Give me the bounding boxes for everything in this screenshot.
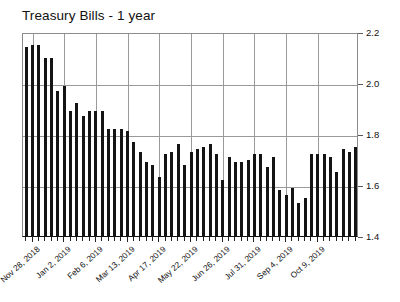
bar — [354, 147, 357, 236]
x-axis-tick-mark — [317, 237, 318, 242]
y-axis-tick-mark — [358, 186, 363, 187]
bar — [221, 180, 224, 236]
x-axis-tick-label: Mar 13, 2019 — [93, 244, 136, 284]
bar — [335, 172, 338, 236]
x-axis-tick-mark — [342, 237, 343, 241]
x-axis-tick-label: May 22, 2019 — [156, 244, 200, 285]
y-axis-tick-label: 1.8 — [366, 130, 379, 140]
bar — [183, 165, 186, 236]
bar — [342, 149, 345, 236]
x-axis-tick-label: Feb 6, 2019 — [65, 244, 105, 281]
x-axis-tick-mark — [228, 237, 229, 241]
x-axis-tick-label: Sep 4, 2019 — [255, 244, 295, 281]
x-axis-tick-mark — [323, 237, 324, 241]
bar — [145, 162, 148, 236]
x-axis-tick-mark — [82, 237, 83, 241]
x-axis-tick-label: Apr 17, 2019 — [126, 244, 168, 283]
bar — [56, 91, 59, 236]
bar — [37, 45, 40, 236]
x-axis-tick-mark — [298, 237, 299, 241]
x-axis-tick-mark — [203, 237, 204, 241]
bar — [228, 157, 231, 236]
x-axis-tick-mark — [272, 237, 273, 241]
bar — [272, 157, 275, 236]
x-axis-tick-mark — [120, 237, 121, 241]
x-axis-tick-mark — [209, 237, 210, 241]
bar — [234, 162, 237, 236]
x-axis-tick-mark — [336, 237, 337, 241]
bar — [297, 203, 300, 236]
bar — [196, 149, 199, 236]
x-axis-tick-mark — [57, 237, 58, 241]
x-axis-tick-mark — [247, 237, 248, 241]
bar — [164, 154, 167, 236]
bar — [113, 129, 116, 236]
y-axis-tick-mark — [358, 237, 363, 238]
bar — [310, 154, 313, 236]
y-axis-tick-mark — [358, 135, 363, 136]
bar — [348, 152, 351, 236]
x-axis-tick-mark — [89, 237, 90, 241]
bar — [215, 154, 218, 236]
bar — [126, 131, 129, 236]
bar — [107, 129, 110, 236]
x-axis-tick-mark — [32, 237, 33, 242]
x-axis-tick-label: Oct 9, 2019 — [288, 244, 327, 280]
x-axis-tick-mark — [329, 237, 330, 241]
x-axis-tick-mark — [291, 237, 292, 241]
bar — [75, 103, 78, 236]
y-axis-tick-label: 1.4 — [366, 232, 379, 242]
bar — [240, 162, 243, 236]
x-axis-tick-mark — [266, 237, 267, 241]
bar — [132, 142, 135, 236]
bar — [285, 195, 288, 236]
bar — [323, 154, 326, 236]
y-axis-tick-mark — [358, 33, 363, 34]
x-axis-tick-mark — [241, 237, 242, 241]
bar — [329, 157, 332, 236]
bar — [259, 154, 262, 236]
bar — [253, 154, 256, 236]
y-axis-tick-label: 1.6 — [366, 181, 379, 191]
bar — [278, 190, 281, 236]
x-axis-tick-mark — [152, 237, 153, 241]
x-axis-tick-mark — [76, 237, 77, 241]
plot-area — [22, 33, 358, 237]
y-axis: 1.41.61.82.02.2 — [358, 33, 400, 237]
x-axis-tick-mark — [222, 237, 223, 242]
x-axis-ticks — [22, 237, 358, 242]
bar — [209, 144, 212, 236]
x-axis-tick-mark — [25, 237, 26, 241]
x-axis-tick-mark — [51, 237, 52, 241]
bar — [202, 147, 205, 236]
bar — [25, 47, 28, 236]
bar — [139, 152, 142, 236]
x-axis-tick-mark — [70, 237, 71, 241]
x-axis-tick-mark — [279, 237, 280, 241]
bar-series — [23, 34, 357, 236]
x-axis-tick-label: Jun 26, 2019 — [189, 244, 231, 284]
x-axis-tick-mark — [95, 237, 96, 242]
x-axis-tick-mark — [260, 237, 261, 241]
bar — [151, 165, 154, 236]
bar — [177, 144, 180, 236]
bar — [44, 58, 47, 237]
bar — [190, 152, 193, 236]
chart-container: Treasury Bills - 1 year 1.41.61.82.02.2 … — [0, 0, 400, 302]
y-axis-tick-label: 2.2 — [366, 28, 379, 38]
bar — [82, 116, 85, 236]
x-axis-tick-mark — [127, 237, 128, 242]
x-axis-tick-mark — [38, 237, 39, 241]
bar — [120, 129, 123, 236]
bar — [63, 86, 66, 236]
x-axis-tick-mark — [133, 237, 134, 241]
bar — [88, 111, 91, 236]
x-axis-tick-mark — [190, 237, 191, 242]
y-axis-tick-label: 2.0 — [366, 79, 379, 89]
x-axis-tick-label: Jan 2, 2019 — [34, 244, 73, 280]
x-axis-tick-mark — [196, 237, 197, 241]
x-axis-tick-mark — [304, 237, 305, 241]
x-axis-tick-mark — [253, 237, 254, 242]
x-axis-tick-mark — [234, 237, 235, 241]
bar — [158, 177, 161, 236]
